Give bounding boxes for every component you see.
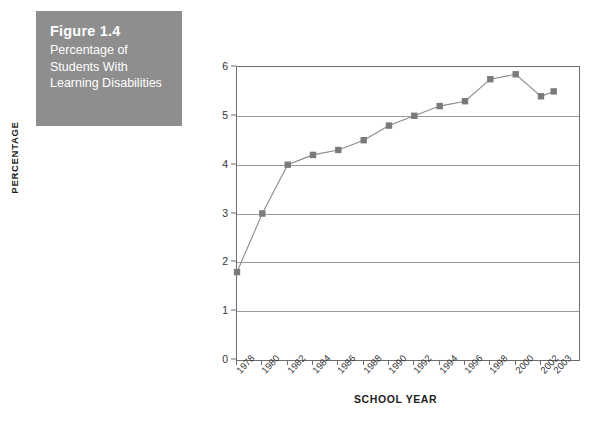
y-tick-label: 2 (204, 255, 228, 267)
data-point (411, 113, 417, 119)
data-point (361, 137, 367, 143)
data-point (538, 93, 544, 99)
y-tick-label: 4 (204, 158, 228, 170)
y-axis-title: PERCENTAGE (9, 121, 20, 193)
x-axis-title: SCHOOL YEAR (354, 393, 437, 405)
data-point (437, 103, 443, 109)
data-point (551, 88, 557, 94)
series-line (237, 74, 554, 272)
y-tick-label: 1 (204, 304, 228, 316)
data-point (462, 98, 468, 104)
chart-container: 0123456 PERCENTAGE SCHOOL YEAR 197819801… (0, 0, 610, 436)
data-point (386, 122, 392, 128)
plot-area (236, 66, 580, 361)
data-series (237, 67, 579, 360)
data-point (259, 210, 265, 216)
y-tick-label: 5 (204, 109, 228, 121)
data-point (487, 76, 493, 82)
data-point (285, 162, 291, 168)
data-point (234, 269, 240, 275)
data-point (310, 152, 316, 158)
data-point (513, 71, 519, 77)
y-tick-label: 6 (204, 60, 228, 72)
y-tick-label: 3 (204, 207, 228, 219)
data-point (335, 147, 341, 153)
y-tick-label: 0 (204, 353, 228, 365)
series-markers (234, 71, 557, 275)
